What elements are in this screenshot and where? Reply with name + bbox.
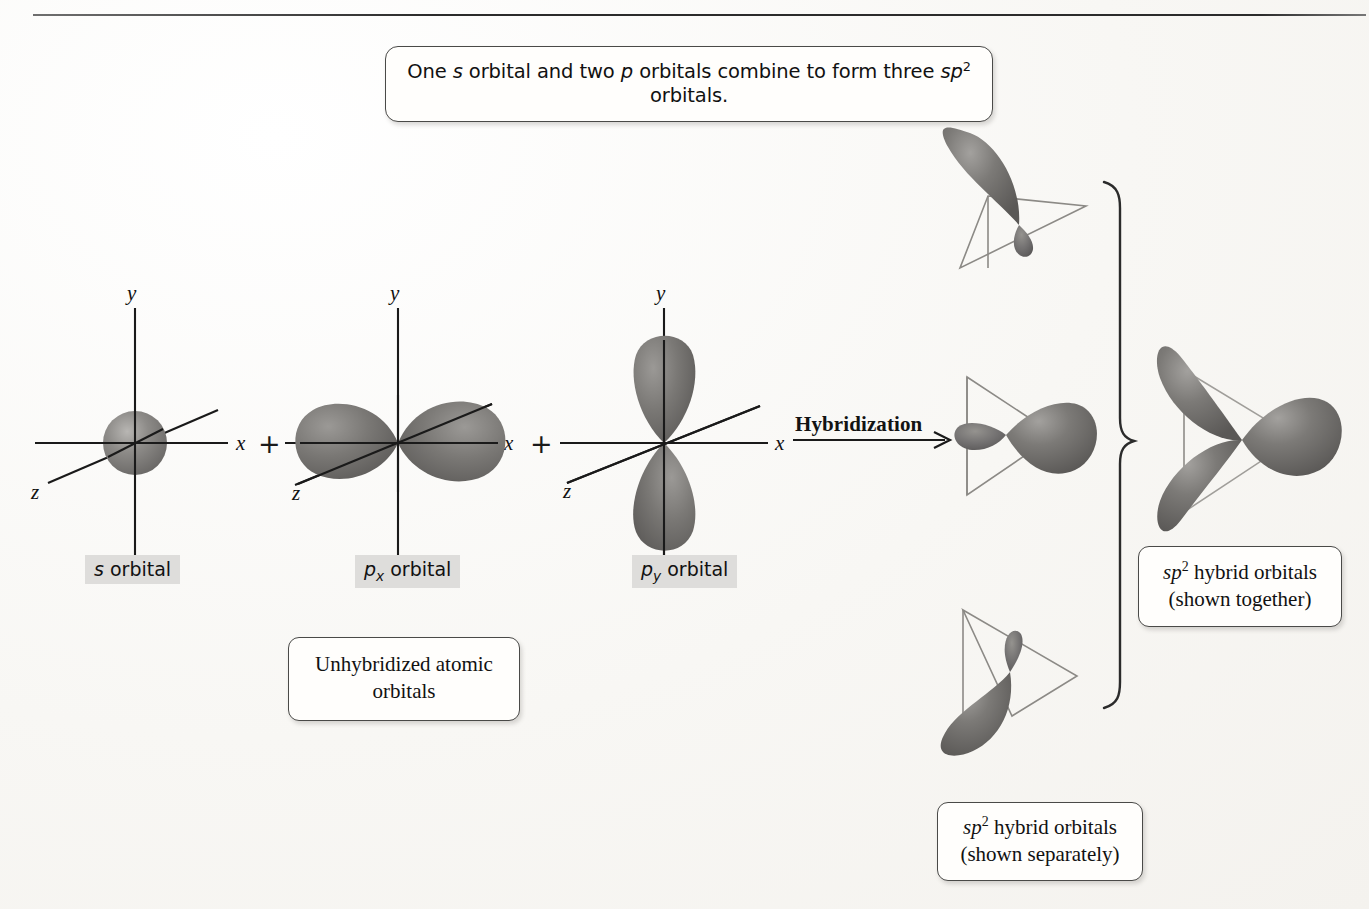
- sp2-top-large-lobe: [943, 127, 1020, 225]
- py-axis-label-x: x: [774, 431, 785, 455]
- shown-together-line-2: (shown together): [1147, 586, 1333, 613]
- sp2-bottom-small-lobe: [1005, 631, 1023, 672]
- sp2-orbitals-combined: [1157, 346, 1342, 531]
- unhybridized-orbitals-box: Unhybridized atomic orbitals: [288, 637, 520, 721]
- sp2-middle-small-lobe: [954, 423, 1006, 450]
- orbital-hybridization-figure: One s orbital and two p orbitals combine…: [0, 0, 1369, 909]
- unhybridized-line-1: Unhybridized atomic: [297, 651, 511, 678]
- s-orbital-axis-labels: y x z: [30, 281, 246, 504]
- s-orbital-sphere: [103, 411, 167, 475]
- plus-sign-2: +: [530, 430, 553, 457]
- px-axis-label-x: x: [503, 431, 514, 455]
- px-orbital-axes-front: [298, 395, 498, 492]
- shown-separately-line-2: (shown separately): [946, 841, 1134, 868]
- px-axis-label-z: z: [291, 481, 300, 505]
- px-orbital-axis-labels: y x z: [291, 281, 514, 505]
- shown-separately-line-1: sp2 hybrid orbitals: [946, 813, 1134, 841]
- s-orbital-axes-front: [103, 411, 167, 475]
- s-axis-label-x: x: [235, 431, 246, 455]
- s-orbital-label: s orbital: [85, 555, 180, 584]
- shown-together-box: sp2 hybrid orbitals (shown together): [1138, 546, 1342, 627]
- px-orbital-right-lobe: [398, 401, 505, 481]
- sp2-top-small-lobe: [1014, 225, 1033, 257]
- caption-text: One s orbital and two p orbitals combine…: [407, 60, 971, 108]
- sp2-orbital-separate-top: [943, 127, 1086, 268]
- figure-artwork: y x z y x z: [0, 0, 1369, 909]
- sp2-bottom-large-lobe: [941, 672, 1012, 756]
- py-orbital-axes-front: [567, 340, 768, 555]
- py-axis-label-y: y: [654, 281, 666, 305]
- px-axis-label-y: y: [388, 281, 400, 305]
- py-orbital-bottom-lobe: [633, 443, 695, 551]
- combined-lobe-lower-left: [1157, 440, 1242, 531]
- s-orbital-axes: [35, 308, 228, 570]
- grouping-brace: [1104, 182, 1134, 708]
- shown-together-line-1: sp2 hybrid orbitals: [1147, 558, 1333, 586]
- combined-lobe-upper-left: [1157, 346, 1242, 440]
- py-orbital-label: py orbital: [632, 555, 737, 588]
- plus-sign-1: +: [258, 430, 281, 457]
- hybridization-arrow-label: Hybridization: [795, 412, 922, 437]
- px-orbital-left-lobe: [295, 404, 398, 479]
- caption-box: One s orbital and two p orbitals combine…: [385, 46, 993, 122]
- sp2-orbital-separate-bottom: [941, 610, 1077, 756]
- sp2-orbital-separate-middle: [954, 377, 1097, 495]
- py-axis-label-z: z: [562, 479, 571, 503]
- px-orbital-label: px orbital: [355, 555, 460, 588]
- top-divider-rule: [33, 14, 1366, 16]
- shown-separately-box: sp2 hybrid orbitals (shown separately): [937, 802, 1143, 881]
- unhybridized-line-2: orbitals: [297, 678, 511, 705]
- py-orbital-axis-labels: y x z: [562, 281, 785, 503]
- py-orbital-top-lobe: [634, 336, 696, 443]
- px-orbital-axes: [285, 308, 498, 570]
- s-axis-label-y: y: [125, 281, 137, 305]
- sp2-middle-large-lobe: [1006, 403, 1097, 474]
- s-axis-label-z: z: [30, 480, 39, 504]
- combined-lobe-right: [1242, 398, 1342, 476]
- py-orbital-axes: [560, 308, 768, 572]
